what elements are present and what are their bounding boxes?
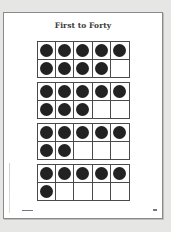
ten-frame-cell: [74, 60, 92, 78]
counter-dot-icon: [76, 103, 89, 116]
counter-dot-icon: [95, 62, 108, 75]
ten-frame-cell: [38, 183, 56, 201]
ten-frame-cell: [56, 183, 74, 201]
ten-frame-cell: [38, 83, 56, 101]
page-number: [153, 209, 157, 211]
counter-dot-icon: [113, 44, 126, 57]
counter-dot-icon: [40, 144, 53, 157]
counter-dot-icon: [76, 85, 89, 98]
counter-dot-icon: [76, 167, 89, 180]
counter-dot-icon: [58, 44, 71, 57]
counter-dot-icon: [58, 167, 71, 180]
ten-frame-cell: [38, 60, 56, 78]
worksheet-page: First to Forty: [3, 12, 163, 219]
ten-frame-cell: [74, 83, 92, 101]
counter-dot-icon: [40, 103, 53, 116]
ten-frame-cell: [38, 165, 56, 183]
ten-frame-cell: [56, 42, 74, 60]
counter-dot-icon: [58, 62, 71, 75]
ten-frame-cell: [74, 165, 92, 183]
counter-dot-icon: [95, 44, 108, 57]
ten-frame-cell: [74, 101, 92, 119]
ten-frame-cell: [111, 101, 129, 119]
counter-dot-icon: [58, 103, 71, 116]
counter-dot-icon: [40, 44, 53, 57]
ten-frame-cell: [111, 124, 129, 142]
ten-frame-cell: [56, 165, 74, 183]
ten-frame-cell: [74, 124, 92, 142]
ten-frame-cell: [56, 83, 74, 101]
ten-frame-cell: [56, 60, 74, 78]
ten-frame-cell: [38, 101, 56, 119]
counter-dot-icon: [95, 167, 108, 180]
ten-frame-cell: [93, 101, 111, 119]
ten-frame-cell: [111, 183, 129, 201]
counter-dot-icon: [58, 144, 71, 157]
ten-frame-cell: [111, 60, 129, 78]
counter-dot-icon: [40, 185, 53, 198]
ten-frame-cell: [74, 42, 92, 60]
page-title: First to Forty: [4, 21, 162, 30]
ten-frame-cell: [111, 83, 129, 101]
ten-frame-cell: [93, 83, 111, 101]
counter-dot-icon: [76, 126, 89, 139]
ten-frame-4: [37, 164, 130, 201]
ten-frame-cell: [38, 124, 56, 142]
counter-dot-icon: [40, 85, 53, 98]
counter-dot-icon: [95, 85, 108, 98]
ten-frame-cell: [93, 60, 111, 78]
ten-frame-cell: [56, 142, 74, 160]
footer-rule: [22, 210, 33, 211]
ten-frame-cell: [74, 142, 92, 160]
counter-dot-icon: [76, 62, 89, 75]
counter-dot-icon: [40, 126, 53, 139]
counter-dot-icon: [40, 167, 53, 180]
counter-dot-icon: [113, 167, 126, 180]
ten-frame-cell: [38, 42, 56, 60]
ten-frame-cell: [93, 42, 111, 60]
counter-dot-icon: [40, 62, 53, 75]
ten-frame-cell: [93, 165, 111, 183]
ten-frame-cell: [93, 142, 111, 160]
ten-frame-cell: [56, 101, 74, 119]
counter-dot-icon: [113, 85, 126, 98]
ten-frame-2: [37, 82, 130, 119]
ten-frame-cell: [93, 124, 111, 142]
ten-frame-cell: [56, 124, 74, 142]
ten-frame-3: [37, 123, 130, 160]
counter-dot-icon: [58, 126, 71, 139]
ten-frame-cell: [74, 183, 92, 201]
counter-dot-icon: [58, 85, 71, 98]
ten-frame-cell: [93, 183, 111, 201]
ten-frame-cell: [38, 142, 56, 160]
counter-dot-icon: [95, 126, 108, 139]
ten-frame-cell: [111, 42, 129, 60]
ten-frame-cell: [111, 142, 129, 160]
counter-dot-icon: [113, 126, 126, 139]
ten-frame-1: [37, 41, 130, 78]
copyright-vertical-text: [9, 163, 10, 213]
counter-dot-icon: [76, 44, 89, 57]
ten-frame-cell: [111, 165, 129, 183]
